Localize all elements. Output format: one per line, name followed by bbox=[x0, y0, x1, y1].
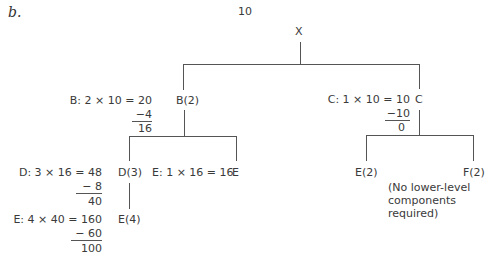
calc-b-subtract-value: −4 bbox=[132, 108, 152, 122]
calc-d-result: 40 bbox=[62, 195, 102, 208]
connector-to-e bbox=[236, 136, 237, 161]
connector-b-down bbox=[184, 110, 185, 136]
calc-b-result: 16 bbox=[112, 122, 152, 135]
connector-level1-bar bbox=[183, 64, 420, 65]
calc-e4-result: 100 bbox=[62, 242, 102, 255]
calc-c-result: 0 bbox=[360, 121, 405, 134]
node-d: D(3) bbox=[118, 166, 142, 179]
node-e4: E(4) bbox=[118, 213, 141, 226]
node-e: E bbox=[232, 166, 239, 179]
connector-x-down bbox=[300, 42, 301, 64]
node-b: B(2) bbox=[176, 94, 199, 107]
connector-to-e2 bbox=[366, 135, 367, 161]
calc-b-subtract: −4 bbox=[112, 108, 152, 122]
node-x: X bbox=[295, 25, 303, 38]
calc-e4-subtract-value: − 60 bbox=[71, 227, 102, 241]
calc-e4-subtract: − 60 bbox=[62, 227, 102, 241]
connector-to-d bbox=[129, 136, 130, 161]
calc-d-line1: D: 3 × 16 = 48 bbox=[10, 166, 102, 179]
calc-b-line1: B: 2 × 10 = 20 bbox=[60, 94, 152, 107]
node-c: C bbox=[415, 93, 423, 106]
node-e2: E(2) bbox=[355, 166, 378, 179]
connector-c-down bbox=[419, 110, 420, 135]
connector-b-children-bar bbox=[129, 136, 237, 137]
calc-d-subtract-value: − 8 bbox=[76, 180, 102, 194]
connector-to-f2 bbox=[473, 135, 474, 161]
note-no-lower-level: (No lower-level components required) bbox=[388, 181, 470, 220]
calc-c-subtract-value: −10 bbox=[385, 107, 410, 121]
connector-d-down bbox=[129, 183, 130, 209]
calc-c-subtract: −10 bbox=[360, 107, 410, 121]
quantity-label: 10 bbox=[238, 5, 252, 18]
calc-d-subtract: − 8 bbox=[62, 180, 102, 194]
connector-c-children-bar bbox=[366, 135, 474, 136]
node-f2: F(2) bbox=[463, 166, 485, 179]
connector-to-c bbox=[419, 64, 420, 89]
figure-label: b. bbox=[8, 4, 21, 20]
calc-e-line1: E: 1 × 16 = 16 bbox=[152, 166, 234, 179]
calc-c-line1: C: 1 × 10 = 10 bbox=[318, 93, 410, 106]
connector-to-b bbox=[183, 64, 184, 90]
calc-e4-line1: E: 4 × 40 = 160 bbox=[2, 213, 102, 226]
